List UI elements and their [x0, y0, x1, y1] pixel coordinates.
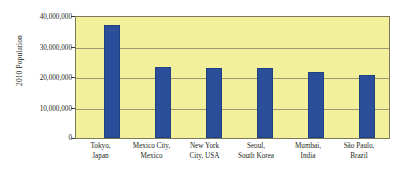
bar-new-york-city-usa[interactable]: [206, 68, 222, 138]
bar-tokyo-japan[interactable]: [104, 25, 120, 138]
x-tick-label-line1: Mumbai,: [282, 142, 334, 152]
x-tick-label-line2: India: [282, 152, 334, 162]
x-tick-label-line1: New York: [178, 142, 231, 152]
x-tick-label-sao-paulo-brazil: São Paulo, Brazil: [332, 142, 386, 161]
x-tick-label-line1: São Paulo,: [332, 142, 386, 152]
bar-sao-paulo-brazil[interactable]: [359, 75, 375, 138]
population-bar-chart: 2010 Population 40,000,000 30,000,000 20…: [0, 0, 406, 180]
x-tick-label-line2: Japan: [75, 152, 126, 162]
x-tick-label-new-york-city-usa: New York City, USA: [178, 142, 231, 161]
bar-mumbai-india[interactable]: [308, 72, 324, 138]
y-tick-label-0: 0: [10, 134, 72, 142]
bar-mexico-city-mexico[interactable]: [155, 67, 171, 138]
x-tick-label-line2: South Korea: [228, 152, 284, 162]
plot-area: [75, 16, 390, 139]
bar-seoul-south-korea[interactable]: [257, 68, 273, 138]
gridline-10000000: [76, 109, 389, 110]
x-tick-label-line1: Seoul,: [228, 142, 284, 152]
x-tick-label-seoul-south-korea: Seoul, South Korea: [228, 142, 284, 161]
x-tick-label-line2: City, USA: [178, 152, 231, 162]
y-axis-title: 2010 Population: [15, 6, 24, 116]
x-tick-label-tokyo-japan: Tokyo, Japan: [75, 142, 126, 161]
x-tick-label-mumbai-india: Mumbai, India: [282, 142, 334, 161]
x-tick-label-mexico-city-mexico: Mexico City, Mexico: [124, 142, 179, 161]
x-tick-label-line1: Tokyo,: [75, 142, 126, 152]
x-tick-label-line1: Mexico City,: [124, 142, 179, 152]
x-tick-label-line2: Mexico: [124, 152, 179, 162]
gridline-20000000: [76, 78, 389, 79]
x-tick-label-line2: Brazil: [332, 152, 386, 162]
gridline-30000000: [76, 48, 389, 49]
